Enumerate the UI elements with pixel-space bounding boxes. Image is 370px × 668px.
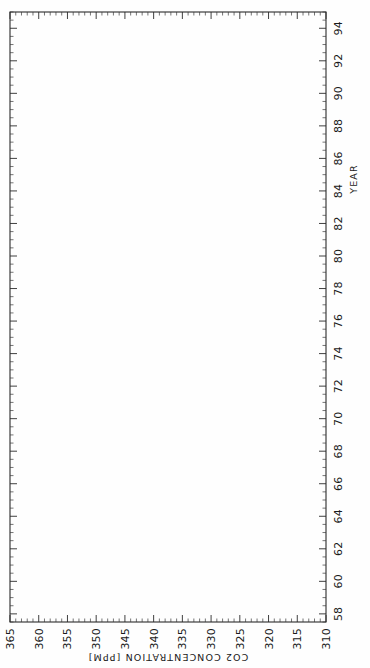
x-tick-label: 58 [332,607,345,621]
x-tick-label: 74 [332,346,345,360]
x-tick-label: 72 [332,379,345,393]
x-tick-label: 86 [332,151,345,165]
x-tick-label: 78 [332,281,345,295]
keeling-curve-plot: 58606264666870727476788082848688909294 3… [0,0,370,668]
plot-background [0,0,370,668]
y-tick-label: 350 [90,628,103,650]
y-tick-label: 335 [176,628,189,650]
x-tick-label: 92 [332,54,345,68]
y-tick-label: 310 [320,628,333,650]
y-tick-label: 345 [119,628,132,650]
rotated-plot-container: 58606264666870727476788082848688909294 3… [0,0,370,668]
x-tick-label: 84 [332,184,345,198]
y-tick-label: 360 [33,628,46,650]
x-tick-label: 60 [332,574,345,588]
x-tick-label: 94 [332,21,345,35]
x-tick-label: 70 [332,411,345,425]
x-tick-label: 62 [332,542,345,556]
x-tick-label: 82 [332,216,345,230]
x-tick-label: 90 [332,86,345,100]
x-axis-title: YEAR [348,164,359,194]
x-tick-label: 64 [332,509,345,523]
y-tick-label: 365 [4,628,17,650]
x-tick-label: 76 [332,314,345,328]
y-tick-label: 340 [148,628,161,650]
y-tick-label: 320 [263,628,276,650]
y-tick-label: 355 [61,628,74,650]
y-axis-title: CO2 CONCENTRATION [PPM] [88,652,249,663]
x-tick-label: 80 [332,249,345,263]
x-tick-label: 88 [332,119,345,133]
x-tick-label: 66 [332,477,345,491]
y-tick-label: 315 [291,628,304,650]
y-tick-label: 330 [205,628,218,650]
y-tick-label: 325 [234,628,247,650]
chart-page: 58606264666870727476788082848688909294 3… [0,0,370,668]
x-tick-label: 68 [332,444,345,458]
